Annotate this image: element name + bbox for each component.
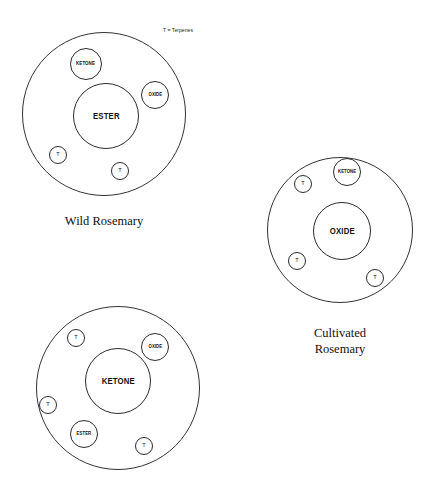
component-label-terpene-1-cultivated-rosemary: T [301,181,305,187]
legend-terpenes: T = Terpenes [163,27,193,33]
component-circle-ketone-cultivated-rosemary: KETONE [333,158,361,186]
component-label-ester-ketone-chemotype: ESTER [77,431,92,436]
component-label-oxide-cultivated-rosemary: OXIDE [329,226,354,236]
component-label-oxide-ketone-chemotype: OXIDE [148,344,162,349]
component-label-ester-wild-rosemary: ESTER [93,111,120,121]
component-circle-oxide-wild-rosemary: OXIDE [141,81,169,109]
component-circle-ester-wild-rosemary: ESTER [73,83,139,149]
component-circle-terpene-3-ketone-chemotype: T [135,437,153,455]
component-label-terpene-3-cultivated-rosemary: T [373,275,377,281]
component-label-oxide-wild-rosemary: OXIDE [148,92,162,97]
component-circle-terpene-1-cultivated-rosemary: T [294,175,312,193]
component-circle-terpene-1-ketone-chemotype: T [67,329,85,347]
component-circle-ketone-wild-rosemary: KETONE [70,48,102,80]
component-circle-terpene-3-cultivated-rosemary: T [366,269,384,287]
component-label-terpene-3-ketone-chemotype: T [142,443,146,449]
component-label-terpene-1-wild-rosemary: T [56,152,60,158]
component-circle-terpene-1-wild-rosemary: T [49,146,67,164]
caption-cultivated-rosemary: Cultivated Rosemary [265,325,415,357]
component-label-terpene-2-cultivated-rosemary: T [295,258,299,264]
component-label-terpene-2-ketone-chemotype: T [46,402,50,408]
component-circle-oxide-ketone-chemotype: OXIDE [141,333,169,361]
component-circle-terpene-2-ketone-chemotype: T [39,396,57,414]
component-label-ketone-ketone-chemotype: KETONE [101,376,134,386]
component-circle-terpene-2-wild-rosemary: T [111,162,129,180]
caption-wild-rosemary: Wild Rosemary [29,213,179,229]
component-circle-terpene-2-cultivated-rosemary: T [288,252,306,270]
component-label-ketone-cultivated-rosemary: KETONE [338,169,356,174]
component-circle-ester-ketone-chemotype: ESTER [70,420,98,448]
component-label-terpene-2-wild-rosemary: T [118,168,122,174]
component-label-terpene-1-ketone-chemotype: T [74,335,78,341]
chemotype-diagram: ESTERKETONEOXIDETTWild RosemaryOXIDEKETO… [0,0,448,486]
component-circle-oxide-cultivated-rosemary: OXIDE [313,202,371,260]
component-label-ketone-wild-rosemary: KETONE [77,61,96,66]
component-circle-ketone-ketone-chemotype: KETONE [85,348,151,414]
